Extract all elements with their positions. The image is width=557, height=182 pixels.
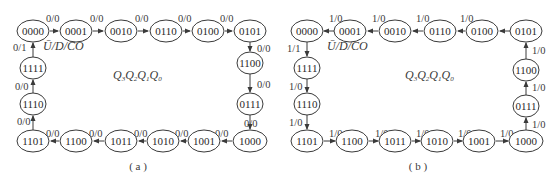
edge-label: 1/1	[287, 43, 300, 54]
svg-text:1001: 1001	[468, 135, 490, 147]
node-b6: 1100	[513, 59, 539, 81]
node-b15: 1111	[294, 57, 320, 79]
edge-label: 1/0	[532, 119, 545, 130]
diagram-a: 0/0 0/0 0/0 0/0 0/0 0/0 0/0 0/0 0/0 0/0 …	[13, 13, 270, 173]
svg-text:0110: 0110	[429, 25, 451, 37]
svg-text:1011: 1011	[110, 135, 132, 147]
node-b13: 1101	[291, 130, 323, 152]
io-label: Ū/D/CO	[327, 39, 368, 53]
state-diagrams: 0/0 0/0 0/0 0/0 0/0 0/0 0/0 0/0 0/0 0/0 …	[0, 0, 557, 182]
svg-text:1111: 1111	[297, 62, 318, 74]
edge-label: 0/0	[46, 13, 59, 24]
edge-label: 1/0	[532, 82, 545, 93]
svg-text:0111: 0111	[515, 100, 536, 112]
svg-text:1111: 1111	[23, 62, 44, 74]
svg-text:0101: 0101	[515, 25, 537, 37]
node-a9: 1001	[188, 130, 220, 152]
node-a4: 0100	[192, 20, 224, 42]
node-b11: 1011	[379, 130, 411, 152]
edge-label: 1/0	[289, 117, 302, 128]
svg-text:1011: 1011	[384, 135, 406, 147]
edge-label: 0/0	[135, 13, 148, 24]
svg-text:1100: 1100	[515, 64, 537, 76]
svg-text:0101: 0101	[239, 25, 261, 37]
svg-text:1110: 1110	[22, 98, 44, 110]
node-b12: 1100	[336, 130, 368, 152]
node-b14: 1110	[294, 93, 320, 115]
edge-label: 0/1	[13, 42, 26, 53]
svg-text:1000: 1000	[239, 135, 262, 147]
svg-text:1101: 1101	[22, 135, 44, 147]
svg-text:1101: 1101	[296, 135, 318, 147]
node-a6: 1100	[237, 52, 263, 74]
svg-text:0001: 0001	[339, 25, 361, 37]
edge-label: 0/0	[90, 13, 103, 24]
svg-text:1010: 1010	[426, 135, 449, 147]
node-a2: 0010	[105, 20, 137, 42]
edge-label: 0/0	[15, 81, 28, 92]
svg-text:0000: 0000	[296, 25, 319, 37]
node-a15: 1111	[20, 57, 46, 79]
edge-label: 1/0	[289, 81, 302, 92]
edge-label: 0/0	[220, 13, 233, 24]
caption-a: ( a )	[129, 160, 147, 173]
node-b5: 0101	[510, 20, 542, 42]
edge-label: 0/0	[178, 13, 191, 24]
svg-text:0001: 0001	[65, 25, 87, 37]
node-a7: 0111	[237, 93, 263, 115]
node-b3: 0110	[424, 20, 456, 42]
svg-text:1001: 1001	[193, 135, 215, 147]
svg-text:1100: 1100	[239, 57, 261, 69]
edge-label: 0/0	[257, 79, 270, 90]
svg-text:0100: 0100	[471, 25, 494, 37]
node-a10: 1010	[147, 130, 179, 152]
node-a3: 0110	[150, 20, 182, 42]
node-b0: 0000	[291, 20, 323, 42]
edge-label: 1/0	[416, 13, 429, 24]
node-a11: 1011	[105, 130, 137, 152]
node-a8: 1000	[233, 130, 267, 152]
node-b7: 0111	[513, 95, 539, 117]
svg-text:1010: 1010	[152, 135, 175, 147]
svg-text:0110: 0110	[155, 25, 177, 37]
edge-label: 1/0	[372, 13, 385, 24]
svg-text:1100: 1100	[65, 135, 87, 147]
edge-label: 0/0	[257, 43, 270, 54]
svg-text:1100: 1100	[341, 135, 363, 147]
state-variable-label: Q3Q2Q1Q0	[405, 68, 454, 83]
node-b4: 0100	[466, 20, 498, 42]
svg-text:0111: 0111	[239, 98, 260, 110]
node-b10: 1010	[421, 130, 453, 152]
diagram-b: 1/0 1/0 1/0 1/0 1/0 1/0 1/0 1/0 1/0 1/0 …	[287, 13, 545, 173]
caption-b: ( b )	[409, 160, 428, 173]
node-a12: 1100	[60, 130, 92, 152]
node-b9: 1001	[463, 130, 495, 152]
edge-label: 1/0	[532, 45, 545, 56]
node-a14: 1110	[20, 93, 46, 115]
state-variable-label: Q3Q2Q1Q0	[113, 68, 162, 83]
svg-text:0010: 0010	[384, 25, 407, 37]
svg-text:1000: 1000	[515, 135, 538, 147]
svg-text:1110: 1110	[296, 98, 318, 110]
svg-text:0000: 0000	[22, 25, 45, 37]
edge-label: 0/0	[17, 116, 30, 127]
node-a13: 1101	[17, 130, 49, 152]
node-b2: 0010	[379, 20, 411, 42]
edge-label: 0/0	[244, 118, 257, 129]
io-label: Ū/D/CO	[43, 39, 84, 53]
node-b8: 1000	[509, 130, 543, 152]
svg-text:0010: 0010	[110, 25, 133, 37]
node-a5: 0101	[234, 20, 266, 42]
svg-text:0100: 0100	[197, 25, 220, 37]
